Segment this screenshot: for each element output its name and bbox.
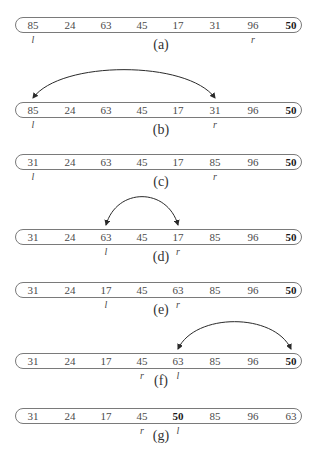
array-cell: 45 <box>130 103 154 117</box>
array-cell: 63 <box>94 230 118 244</box>
array-cell: 24 <box>58 230 82 244</box>
array-cell: 45 <box>130 354 154 368</box>
array-cell: 96 <box>241 155 265 169</box>
pivot-cell: 50 <box>166 409 190 423</box>
array-cell: 24 <box>58 155 82 169</box>
array-cell: 85 <box>203 354 227 368</box>
array-cell: 45 <box>130 155 154 169</box>
pivot-cell: 50 <box>279 155 303 169</box>
array-row-step-c: 3124634517859650 <box>15 154 302 170</box>
array-cell: 24 <box>58 18 82 32</box>
array-cell: 31 <box>21 409 45 423</box>
array-cell: 24 <box>58 103 82 117</box>
array-cell: 17 <box>94 409 118 423</box>
array-row-step-g: 3124174550859663 <box>15 408 302 424</box>
pivot-cell: 50 <box>279 103 303 117</box>
pivot-cell: 50 <box>279 354 303 368</box>
array-cell: 63 <box>94 103 118 117</box>
array-cell: 24 <box>58 409 82 423</box>
array-cell: 63 <box>166 354 190 368</box>
array-cell: 85 <box>203 155 227 169</box>
array-cell: 17 <box>166 230 190 244</box>
step-caption: (e) <box>0 303 322 317</box>
array-cell: 31 <box>203 18 227 32</box>
array-cell: 96 <box>241 354 265 368</box>
array-cell: 85 <box>203 409 227 423</box>
array-cell: 96 <box>241 283 265 297</box>
step-caption: (f) <box>0 374 322 388</box>
array-row-step-e: 3124174563859650 <box>15 282 302 298</box>
array-cell: 17 <box>166 103 190 117</box>
array-row-step-f: 3124174563859650 <box>15 353 302 369</box>
pivot-cell: 50 <box>279 18 303 32</box>
array-cell: 45 <box>130 283 154 297</box>
array-cell: 96 <box>241 18 265 32</box>
array-cell: 85 <box>21 103 45 117</box>
step-caption: (b) <box>0 123 322 137</box>
array-cell: 31 <box>21 354 45 368</box>
step-caption: (d) <box>0 250 322 264</box>
array-cell: 45 <box>130 18 154 32</box>
array-cell: 63 <box>279 409 303 423</box>
array-cell: 85 <box>203 283 227 297</box>
array-cell: 24 <box>58 354 82 368</box>
array-cell: 45 <box>130 409 154 423</box>
pivot-cell: 50 <box>279 230 303 244</box>
array-cell: 31 <box>21 283 45 297</box>
array-cell: 17 <box>94 283 118 297</box>
array-cell: 96 <box>241 103 265 117</box>
array-cell: 45 <box>130 230 154 244</box>
array-cell: 17 <box>94 354 118 368</box>
array-cell: 31 <box>203 103 227 117</box>
array-cell: 63 <box>166 283 190 297</box>
pivot-cell: 50 <box>279 283 303 297</box>
array-row-step-d: 3124634517859650 <box>15 229 302 245</box>
array-row-step-b: 8524634517319650 <box>15 102 302 118</box>
step-caption: (g) <box>0 429 322 443</box>
array-cell: 31 <box>21 230 45 244</box>
array-cell: 96 <box>241 409 265 423</box>
swap-arrow-icon <box>33 70 215 98</box>
array-cell: 24 <box>58 283 82 297</box>
array-cell: 85 <box>21 18 45 32</box>
swap-arrow-icon <box>106 197 178 225</box>
array-cell: 31 <box>21 155 45 169</box>
array-cell: 85 <box>203 230 227 244</box>
array-cell: 17 <box>166 18 190 32</box>
array-cell: 63 <box>94 18 118 32</box>
array-cell: 96 <box>241 230 265 244</box>
array-cell: 63 <box>94 155 118 169</box>
step-caption: (c) <box>0 175 322 189</box>
step-caption: (a) <box>0 38 322 52</box>
array-row-step-a: 8524634517319650 <box>15 17 302 33</box>
swap-arrow-icon <box>178 322 291 349</box>
array-cell: 17 <box>166 155 190 169</box>
